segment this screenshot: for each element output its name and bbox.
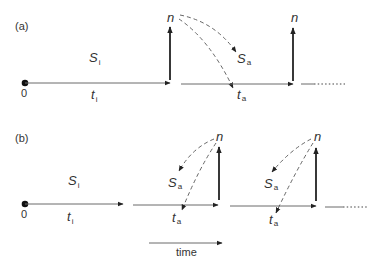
pulse-label-2: n (291, 10, 298, 25)
time-after-label: ta (172, 210, 182, 226)
state-after-label: Sa (168, 175, 183, 191)
time-axis-label: time (176, 246, 197, 258)
panel-label-b: (b) (15, 132, 28, 144)
state-after-label-2: Sa (264, 176, 279, 192)
origin-label: 0 (21, 87, 27, 99)
time-after-label-2: ta (269, 212, 279, 228)
time-initial-label: ti (67, 209, 74, 226)
state-initial-label: Si (68, 173, 80, 190)
panel-b: (b) 0 Si ti n Sa ta n Sa ta time (15, 129, 368, 258)
panel-a: (a) 0 Si ti n Sa ta n (15, 10, 345, 104)
transition-to-state-after (180, 15, 236, 52)
pulse-label-2: n (314, 129, 321, 144)
state-initial-label: Si (89, 50, 101, 67)
transition-to-time-after-2 (276, 143, 313, 213)
timeline-diagram: (a) 0 Si ti n Sa ta n (b) 0 Si ti n Sa (0, 0, 385, 265)
time-after-label: ta (237, 87, 247, 103)
origin-label: 0 (21, 208, 27, 220)
transition-to-time-after (182, 143, 216, 210)
panel-label-a: (a) (15, 20, 28, 32)
state-after-label: Sa (237, 51, 252, 67)
transition-to-time-after (179, 19, 233, 88)
pulse-label: n (216, 129, 223, 144)
pulse-label: n (167, 10, 174, 25)
time-initial-label: ti (91, 87, 98, 104)
